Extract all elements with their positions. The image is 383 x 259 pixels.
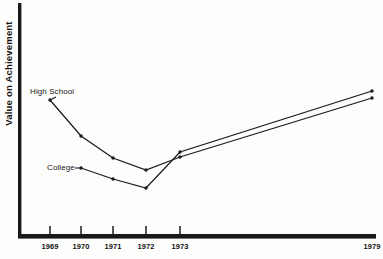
chart-plot-area — [0, 0, 383, 259]
x-tick-label-1970: 1970 — [72, 242, 89, 251]
y-axis-line — [18, 3, 21, 237]
series-label-college: College — [47, 163, 75, 172]
x-tick-label-1969: 1969 — [41, 242, 58, 251]
series-line-college — [81, 91, 372, 188]
series-markers-high-school — [48, 96, 373, 171]
series-label-high-school: High School — [30, 87, 74, 96]
x-axis-ticks — [50, 226, 180, 235]
x-tick-label-1973: 1973 — [171, 242, 188, 251]
leader-line-high-school — [50, 97, 56, 100]
series-line-high-school — [50, 98, 372, 170]
x-tick-label-1971: 1971 — [104, 242, 121, 251]
x-axis-line — [18, 234, 376, 239]
x-tick-label-1979: 1979 — [363, 242, 380, 251]
y-axis-title: Value on Achievement — [3, 12, 14, 136]
chart-figure: Value on Achievement High School College… — [0, 0, 383, 259]
x-tick-label-1972: 1972 — [137, 242, 154, 251]
